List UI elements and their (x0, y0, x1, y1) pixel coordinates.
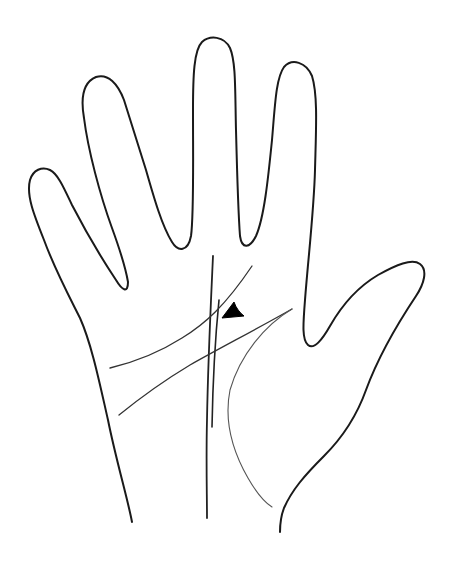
head-line (119, 309, 292, 415)
fate-line (207, 256, 213, 518)
palm-diagram: Palm line drawing with triangle marker (0, 0, 452, 568)
triangle-marker (222, 302, 244, 318)
hand-outline (29, 38, 424, 532)
secondary-vertical-line (212, 300, 219, 427)
palm-svg (0, 0, 452, 568)
